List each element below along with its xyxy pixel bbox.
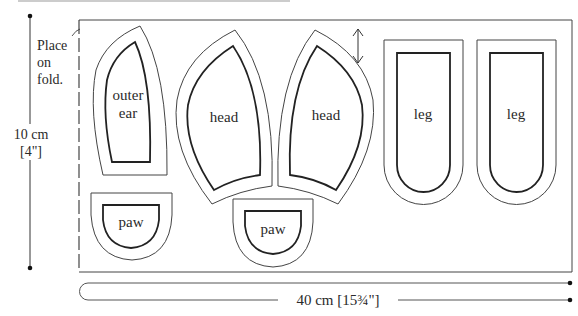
- outer-ear-label-line2: ear: [119, 105, 137, 121]
- paw-2-label: paw: [261, 221, 286, 237]
- width-dot-top: [568, 281, 573, 286]
- dimension-dot-top: [28, 14, 33, 19]
- piece-paw-2: paw: [233, 199, 313, 267]
- width-dot-bottom: [568, 298, 573, 303]
- piece-leg-1: leg: [384, 40, 463, 205]
- head-2-label: head: [312, 107, 341, 123]
- fold-note: Place on fold.: [35, 28, 80, 87]
- height-imperial: [4"]: [20, 144, 42, 159]
- fabric-rectangle: [79, 20, 572, 272]
- dimension-dot-bottom: [28, 266, 33, 271]
- width-dimension: 40 cm [15¾"]: [80, 281, 573, 311]
- double-headed-arrow-icon: [353, 29, 363, 63]
- outer-ear-label-line1: outer: [113, 87, 144, 103]
- height-value: 10 cm: [14, 127, 49, 142]
- piece-head-1: head: [176, 30, 272, 204]
- paw-1-label: paw: [119, 214, 144, 230]
- piece-paw-1: paw: [91, 193, 172, 260]
- piece-head-2: head: [278, 30, 374, 204]
- leg-1-label: leg: [414, 106, 433, 122]
- head-1-label: head: [210, 109, 239, 125]
- fold-note-line1: Place: [37, 38, 67, 53]
- leg-2-label: leg: [507, 106, 526, 122]
- piece-outer-ear: outer ear: [93, 26, 167, 175]
- pattern-diagram: 10 cm [4"] Place on fold. outer ear head…: [0, 0, 578, 316]
- fold-note-line3: fold.: [37, 72, 63, 87]
- fold-note-line2: on: [37, 55, 51, 70]
- piece-leg-2: leg: [477, 40, 556, 205]
- width-label: 40 cm [15¾"]: [296, 292, 379, 308]
